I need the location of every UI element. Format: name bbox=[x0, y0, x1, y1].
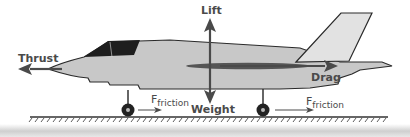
airplane-illustration bbox=[0, 0, 410, 137]
friction-label-front: Ffriction bbox=[151, 94, 189, 105]
ground bbox=[29, 117, 388, 122]
bottom-shadow-band bbox=[0, 124, 410, 137]
friction-subscript: friction bbox=[312, 100, 344, 110]
weight-label: Weight bbox=[191, 104, 235, 115]
lift-label: Lift bbox=[201, 5, 222, 16]
friction-label-rear: Ffriction bbox=[306, 96, 344, 107]
thrust-label: Thrust bbox=[18, 53, 58, 64]
friction-subscript: friction bbox=[157, 98, 189, 108]
tail-fin bbox=[296, 13, 372, 62]
canopy bbox=[84, 40, 140, 57]
airplane-forces-diagram: Lift Weight Thrust Drag Ffriction Ffrict… bbox=[0, 0, 410, 137]
drag-label: Drag bbox=[311, 72, 341, 83]
